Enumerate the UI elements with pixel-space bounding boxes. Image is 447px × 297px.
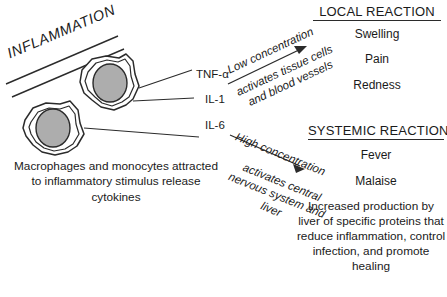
macrophage-cell-upper bbox=[80, 54, 139, 110]
connector-to-il1 bbox=[133, 98, 194, 101]
local-reaction-item: Swelling bbox=[313, 28, 441, 40]
local-reaction-item: Redness bbox=[313, 79, 441, 91]
systemic-reaction-heading: SYSTEMIC REACTION bbox=[308, 124, 444, 140]
cytokine-label-il-6: IL-6 bbox=[205, 120, 225, 132]
inflammation-cytokine-diagram: INFLAMMATION TNF-α IL-1 IL-6 Low concent… bbox=[0, 0, 447, 297]
local-reaction-heading: LOCAL REACTION bbox=[313, 5, 441, 21]
systemic-reaction-item: Fever bbox=[308, 149, 444, 161]
connector-to-tnf bbox=[139, 70, 192, 88]
systemic-reaction-paragraph: Increased production by liver of specifi… bbox=[296, 199, 446, 274]
systemic-reaction-item: Malaise bbox=[308, 175, 444, 187]
macrophage-caption: Macrophages and monocytes attracted to i… bbox=[8, 159, 224, 205]
connector-to-il6 bbox=[84, 128, 199, 137]
local-reaction-item: Pain bbox=[313, 53, 441, 65]
macrophage-cell-lower bbox=[23, 101, 84, 155]
cytokine-label-tnf-alpha: TNF-α bbox=[196, 69, 229, 81]
cytokine-label-il-1: IL-1 bbox=[205, 94, 225, 106]
